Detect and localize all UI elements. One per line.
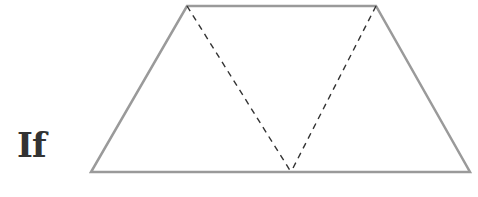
trapezoid-diagram: [0, 0, 478, 197]
trapezoid-outline: [91, 6, 470, 172]
dashed-line-right: [291, 6, 376, 172]
dashed-line-left: [187, 6, 291, 172]
